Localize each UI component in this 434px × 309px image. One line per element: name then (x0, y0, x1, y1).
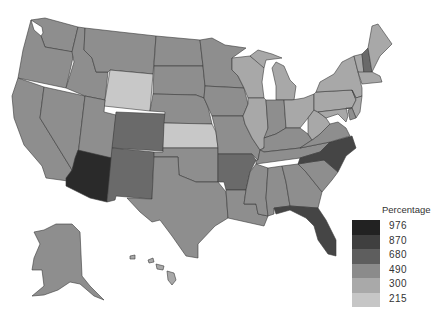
legend-title: Percentage (382, 204, 431, 215)
state-maine[interactable] (368, 24, 392, 72)
state-new-mexico[interactable] (107, 148, 154, 202)
legend-swatch-976 (352, 220, 380, 235)
legend-label-870: 870 (389, 235, 407, 246)
state-north-dakota[interactable] (154, 36, 203, 66)
state-massachusetts[interactable] (358, 72, 382, 84)
state-wyoming[interactable] (104, 70, 153, 111)
map-legend: Percentage 976 870 680 490 300 215 (352, 204, 434, 308)
state-colorado[interactable] (112, 112, 165, 151)
legend-label-300: 300 (389, 278, 407, 289)
legend-label-215: 215 (389, 293, 407, 304)
state-florida[interactable] (274, 206, 336, 256)
state-hawaii[interactable] (130, 255, 176, 285)
legend-swatch-490 (352, 264, 380, 279)
legend-swatch-300 (352, 278, 380, 293)
legend-label-680: 680 (389, 249, 407, 260)
legend-label-490: 490 (389, 264, 407, 275)
state-alaska[interactable] (32, 224, 104, 300)
state-kansas[interactable] (163, 123, 218, 148)
legend-label-976: 976 (389, 220, 407, 231)
state-pennsylvania[interactable] (314, 90, 356, 112)
state-south-dakota[interactable] (153, 66, 205, 98)
state-iowa[interactable] (204, 86, 248, 116)
state-montana[interactable] (84, 28, 156, 74)
legend-swatch-215 (352, 293, 380, 308)
legend-swatch-870 (352, 235, 380, 250)
legend-swatch-680 (352, 249, 380, 264)
